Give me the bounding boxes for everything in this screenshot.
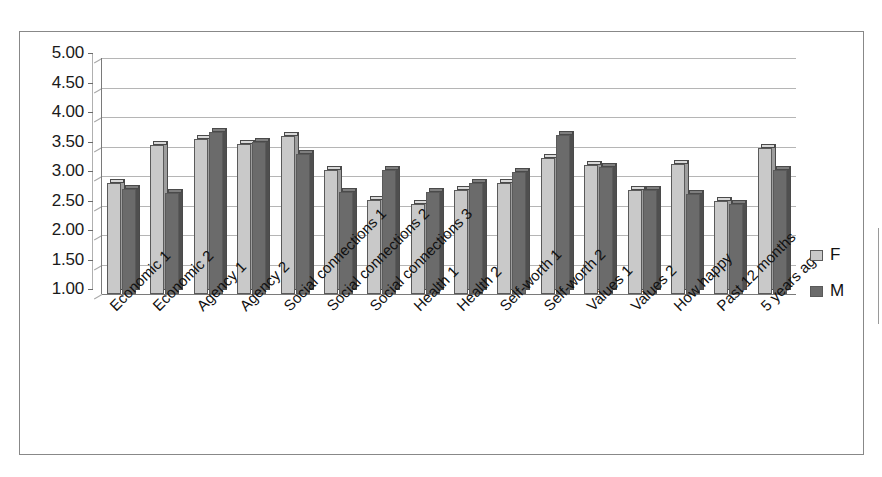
bar-side: [570, 131, 574, 290]
bar-top: [284, 132, 298, 136]
bar-face: [107, 183, 121, 294]
bar-top: [153, 141, 167, 145]
y-axis-tick-label: 2.50: [52, 191, 84, 211]
legend-label: M: [830, 281, 844, 301]
legend-item: M: [810, 282, 870, 300]
bar-face: [556, 135, 570, 294]
bar-top: [732, 200, 746, 204]
bar-top: [125, 185, 139, 189]
gridline-riser: [94, 294, 102, 299]
y-axis-tick: [88, 289, 93, 290]
bar-top: [472, 179, 486, 183]
y-axis-tick-label: 1.50: [52, 250, 84, 270]
y-axis-tick-label: 4.50: [52, 73, 84, 93]
y-axis-tick: [88, 230, 93, 231]
bar-top: [559, 131, 573, 135]
bar-top: [674, 160, 688, 164]
bar-top: [327, 166, 341, 170]
bar-top: [168, 189, 182, 193]
y-axis-tick: [88, 171, 93, 172]
bar-top: [689, 190, 703, 194]
bar-top: [515, 168, 529, 172]
legend-divider: [878, 228, 879, 324]
bar-top: [255, 138, 269, 142]
legend-item: F: [810, 246, 870, 264]
bar-f: [107, 183, 121, 294]
x-axis-labels: Economic 1Economic 2Agency 1Agency 2Soci…: [102, 302, 796, 452]
bar-group: [102, 58, 145, 294]
bar-top: [776, 166, 790, 170]
bar-face: [714, 201, 728, 294]
y-axis-tick-label: 2.00: [52, 220, 84, 240]
bar-top: [646, 186, 660, 190]
y-axis-tick: [88, 83, 93, 84]
bar-side: [223, 128, 227, 290]
y-axis-tick: [88, 260, 93, 261]
y-axis-tick-label: 1.00: [52, 279, 84, 299]
y-axis-tick: [88, 112, 93, 113]
y-axis-tick-label: 5.00: [52, 43, 84, 63]
legend-swatch-f: [810, 250, 823, 261]
bar-group: [492, 58, 535, 294]
bar-group: [666, 58, 709, 294]
legend-swatch-m: [810, 286, 823, 297]
bar-top: [761, 144, 775, 148]
bar-group: [449, 58, 492, 294]
y-axis-tick-label: 3.50: [52, 132, 84, 152]
chart-frame: 5.004.504.003.503.002.502.001.501.00 Eco…: [19, 31, 864, 455]
bar-top: [717, 197, 731, 201]
bar-m: [209, 132, 223, 294]
chart-legend: FM: [810, 246, 870, 318]
bar-m: [556, 135, 570, 294]
bar-top: [587, 161, 601, 165]
y-axis-tick: [88, 201, 93, 202]
y-axis-tick: [88, 53, 93, 54]
bar-top: [299, 150, 313, 154]
bar-group: [623, 58, 666, 294]
bar-f: [714, 201, 728, 294]
y-axis-tick: [88, 142, 93, 143]
bar-m: [252, 142, 266, 294]
bar-face: [252, 142, 266, 294]
y-axis-tick-label: 3.00: [52, 161, 84, 181]
y-axis-tick-label: 4.00: [52, 102, 84, 122]
bar-top: [602, 163, 616, 167]
bar-top: [429, 188, 443, 192]
bar-top: [110, 179, 124, 183]
bar-top: [385, 166, 399, 170]
legend-label: F: [830, 245, 840, 265]
bar-top: [212, 128, 226, 132]
bar-top: [342, 188, 356, 192]
bar-face: [209, 132, 223, 294]
